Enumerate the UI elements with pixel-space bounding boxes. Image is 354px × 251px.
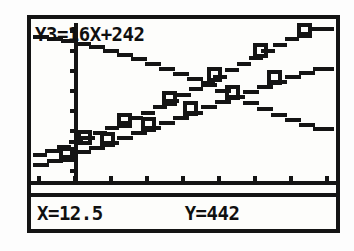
calculator-screen: Y3=16X+242 X=12.5 Y=442 [27, 15, 340, 233]
equation-label: Y3=16X+242 [35, 25, 144, 44]
trace-status-bar: X=12.5 Y=442 [31, 193, 336, 229]
graph-plot-svg [31, 19, 336, 193]
series-line-increasing-shallow [33, 67, 334, 167]
graph-viewport[interactable]: Y3=16X+242 [31, 19, 336, 193]
trace-x-readout: X=12.5 [37, 204, 103, 223]
screenshot-root: Y3=16X+242 X=12.5 Y=442 [0, 0, 354, 251]
trace-y-readout: Y=442 [185, 204, 240, 223]
